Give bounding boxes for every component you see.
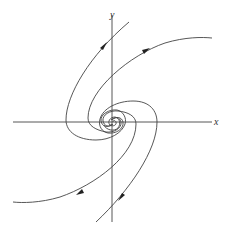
x-axis-label: x [213, 116, 219, 127]
arrow-icon [118, 193, 125, 201]
trajectory-lower-left [13, 111, 136, 203]
phase-portrait: x y [0, 0, 231, 233]
trajectory-upper-right [88, 38, 212, 133]
arrow-icon [100, 42, 107, 50]
trajectory-lower-right [96, 101, 157, 222]
y-axis-label: y [109, 9, 115, 20]
